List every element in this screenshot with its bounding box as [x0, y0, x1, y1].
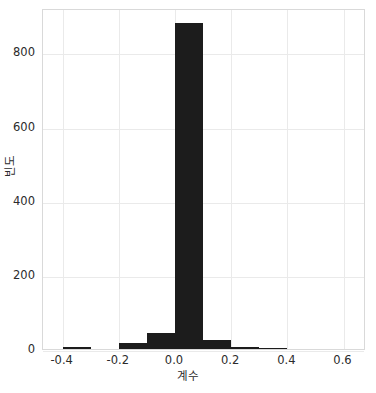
- histogram-bar: [259, 348, 287, 349]
- y-axis-label: 빈도: [0, 156, 34, 176]
- x-tick-label: -0.4: [50, 353, 72, 367]
- y-tick-label: 800: [0, 45, 35, 59]
- chart-figure: 0200400600800 빈도 -0.4-0.20.00.20.40.6 계수: [0, 0, 376, 393]
- histogram-bar: [203, 340, 231, 349]
- x-tick-label: 0.2: [221, 353, 239, 367]
- y-tick-label: 200: [0, 268, 35, 282]
- histogram-bar: [175, 23, 203, 349]
- histogram-bar: [147, 333, 175, 349]
- y-tick-label: 0: [0, 342, 35, 356]
- x-tick-label: 0.6: [333, 353, 351, 367]
- x-tick-label: 0.0: [165, 353, 183, 367]
- histogram-bar: [231, 347, 259, 349]
- histogram-bars: [43, 10, 364, 349]
- x-tick-label: 0.4: [277, 353, 295, 367]
- gridline-y: [43, 351, 364, 352]
- plot-area: [42, 9, 365, 350]
- histogram-bar: [63, 347, 91, 349]
- figure-caption: [0, 385, 376, 393]
- y-axis-label-text: 빈도: [1, 155, 17, 177]
- y-tick-label: 400: [0, 194, 35, 208]
- histogram-bar: [119, 343, 147, 349]
- x-tick-label: -0.2: [107, 353, 129, 367]
- x-axis-label: 계수: [0, 367, 376, 383]
- y-tick-label: 600: [0, 120, 35, 134]
